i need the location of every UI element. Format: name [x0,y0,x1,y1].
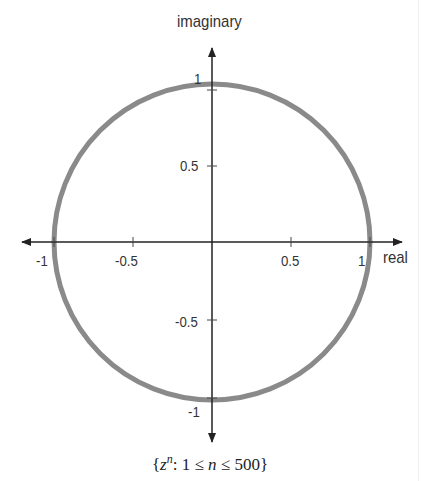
chart-caption: {zn: 1 ≤ n ≤ 500} [0,450,420,475]
x-tick-label: 1 [358,252,365,269]
x-axis-label: real [383,248,408,268]
x-tick-label: 0.5 [281,252,299,269]
y-tick-label: 0.5 [180,157,198,174]
unit-circle-plot [0,0,435,481]
y-axis-label: imaginary [177,12,242,32]
y-tick-label: 1 [194,70,201,87]
x-tick-label: -0.5 [115,252,138,269]
y-tick-label: -0.5 [175,313,198,330]
y-tick-label: -1 [188,403,200,420]
x-tick-label: -1 [36,252,48,269]
